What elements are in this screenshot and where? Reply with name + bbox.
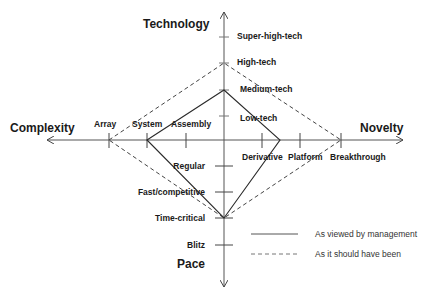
legend: As viewed by management As it should hav… (251, 229, 418, 259)
axis-title-novelty: Novelty (360, 121, 404, 135)
tick-label-platform: Platform (288, 152, 323, 162)
tick-label-low-tech: Low-tech (240, 113, 277, 123)
legend-label-should-have-been: As it should have been (315, 249, 401, 259)
tick-label-super-high-tech: Super-high-tech (237, 31, 302, 41)
tick-label-regular: Regular (173, 161, 205, 171)
axis-title-technology: Technology (143, 17, 210, 31)
tick-label-array: Array (94, 119, 116, 129)
axes (47, 12, 403, 287)
legend-label-management: As viewed by management (315, 229, 418, 239)
tick-label-system: System (132, 119, 163, 129)
axis-title-pace: Pace (177, 257, 205, 271)
tick-label-breakthrough: Breakthrough (330, 152, 386, 162)
axis-title-complexity: Complexity (10, 121, 75, 135)
tick-label-high-tech: High-tech (237, 57, 276, 67)
tick-label-medium-tech: Medium-tech (240, 84, 292, 94)
tick-label-assembly: Assembly (171, 119, 211, 129)
tick-label-blitz: Blitz (187, 240, 205, 250)
diamond-diagram: Technology Complexity Novelty Pace Super… (0, 0, 428, 293)
tick-label-fast-competitive: Fast/competitive (138, 187, 205, 197)
tick-label-time-critical: Time-critical (155, 213, 205, 223)
tick-label-derivative: Derivative (242, 152, 283, 162)
